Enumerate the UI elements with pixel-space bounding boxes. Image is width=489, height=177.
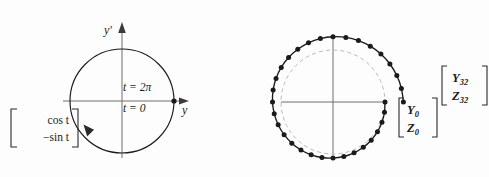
left-axis-y-label: y [181, 103, 188, 117]
spiral-point-2 [379, 120, 384, 125]
left-label-t-two-pi: t = 2π [123, 81, 152, 93]
left-matrix-row-2: −sin t [43, 131, 70, 143]
spiral-point-3 [375, 129, 380, 134]
spiral-point-9 [319, 155, 324, 160]
spiral-point-21 [295, 47, 300, 52]
spiral-point-32 [401, 100, 406, 105]
left-matrix-row-1: cos t [48, 114, 70, 126]
left-start-point-dot [171, 98, 176, 103]
right-end-bracket-close [482, 66, 487, 105]
spiral-point-29 [387, 61, 392, 66]
spiral-point-25 [343, 35, 348, 40]
left-axis-yprime-label: y′ [103, 23, 112, 37]
spiral-point-4 [369, 138, 374, 143]
spiral-point-24 [331, 34, 336, 39]
spiral-point-11 [298, 147, 303, 152]
spiral-point-28 [378, 52, 383, 57]
textbook-figure: y y′ t = 2π t = 0 cos t −sin t [0, 0, 489, 177]
spiral-point-10 [309, 152, 314, 157]
spiral-point-12 [289, 141, 294, 146]
spiral-point-23 [318, 36, 323, 41]
spiral-point-15 [272, 111, 277, 116]
left-bracket-open [11, 109, 17, 147]
spiral-point-8 [331, 156, 336, 161]
left-vertical-axis-arrowhead [118, 22, 126, 33]
right-end-bracket-open [442, 66, 447, 105]
spiral-point-18 [274, 76, 279, 81]
spiral-point-14 [276, 122, 281, 127]
right-spiral-curve [272, 37, 403, 158]
spiral-point-27 [368, 44, 373, 49]
spiral-point-20 [286, 55, 291, 60]
left-circle-direction-arrowhead [84, 125, 95, 137]
right-start-vector-row-2: Z0 [406, 121, 420, 137]
spiral-point-0 [383, 100, 388, 105]
spiral-point-1 [382, 110, 387, 115]
right-start-vector-row-1: Y0 [407, 103, 420, 119]
spiral-point-22 [306, 40, 311, 45]
left-label-t-zero: t = 0 [123, 102, 146, 114]
spiral-point-16 [270, 100, 275, 105]
right-spiral-points-group [270, 34, 406, 160]
spiral-point-13 [282, 132, 287, 137]
left-panel-group: y y′ t = 2π t = 0 cos t −sin t [11, 22, 189, 158]
spiral-point-19 [279, 65, 284, 70]
right-end-vector-row-2: Z32 [451, 89, 469, 105]
spiral-point-31 [399, 86, 404, 91]
spiral-point-5 [361, 145, 366, 150]
spiral-point-7 [341, 154, 346, 159]
right-panel-group: Y0 Z0 Y32 Z32 [270, 34, 487, 160]
figure-canvas: y y′ t = 2π t = 0 cos t −sin t [0, 0, 489, 177]
right-start-bracket-close [432, 98, 437, 137]
spiral-point-17 [271, 88, 276, 93]
spiral-point-30 [394, 73, 399, 78]
right-end-vector-row-1: Y32 [452, 71, 469, 87]
spiral-point-26 [356, 38, 361, 43]
spiral-point-6 [352, 150, 357, 155]
